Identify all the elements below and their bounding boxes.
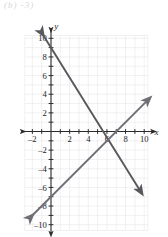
x-tick-label: 10 xyxy=(140,134,149,144)
y-tick-label: 6 xyxy=(43,71,48,81)
top-text-fragment: (b) -3) xyxy=(4,0,34,10)
data-series xyxy=(30,33,147,218)
y-tick-label: –2 xyxy=(37,145,47,155)
y-tick-label: –6 xyxy=(37,183,47,193)
y-tick-label: 2 xyxy=(43,108,47,118)
x-tick-label: 4 xyxy=(86,134,91,144)
y-axis-label: y xyxy=(53,21,58,31)
x-tick-label: –2 xyxy=(27,134,37,144)
x-tick-label: 8 xyxy=(123,134,127,144)
ascending-line xyxy=(30,100,147,217)
y-tick-label: –10 xyxy=(33,220,47,230)
x-axis-label: x xyxy=(153,127,158,137)
graph-figure: (b) -3) –2246810 108642–2–4–6–8–10 x y xyxy=(0,0,168,237)
x-tick-labels: –2246810 xyxy=(27,134,148,144)
y-tick-label: 8 xyxy=(43,52,47,62)
y-tick-label: –4 xyxy=(37,164,47,174)
x-tick-label: 2 xyxy=(67,134,71,144)
y-tick-label: 4 xyxy=(43,89,48,99)
coordinate-plane-svg: –2246810 108642–2–4–6–8–10 x y xyxy=(0,0,168,237)
